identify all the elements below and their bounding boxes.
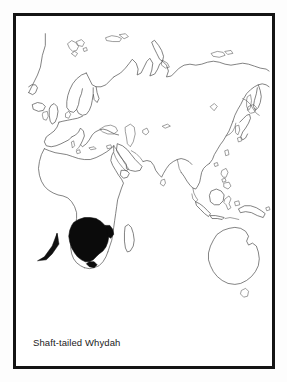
world-map — [16, 16, 272, 366]
ocean-background — [16, 16, 272, 366]
figure-container: Shaft-tailed Whydah — [0, 0, 287, 382]
map-frame: Shaft-tailed Whydah — [13, 13, 275, 369]
species-caption: Shaft-tailed Whydah — [33, 337, 120, 348]
